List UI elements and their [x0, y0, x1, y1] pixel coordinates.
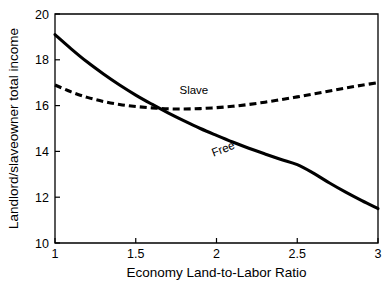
y-tick-label: 10	[35, 237, 49, 251]
x-tick-label: 2.5	[289, 247, 306, 261]
series-label-slave: Slave	[179, 84, 208, 96]
x-tick-label: 2	[213, 247, 220, 261]
x-tick-label: 1	[52, 247, 59, 261]
y-tick-label: 14	[35, 145, 49, 159]
x-axis-title: Economy Land-to-Labor Ratio	[126, 265, 306, 280]
y-tick-label: 12	[35, 191, 49, 205]
chart-figure: 11.522.53 101214161820 FreeSlave Economy…	[0, 0, 390, 290]
x-tick-label: 1.5	[127, 247, 144, 261]
y-tick-label: 18	[35, 53, 49, 67]
y-tick-label: 20	[35, 8, 49, 22]
y-axis-title: Landlord/slaveowner total income	[6, 28, 21, 229]
line-chart-canvas: 11.522.53 101214161820 FreeSlave Economy…	[0, 0, 390, 290]
x-tick-label: 3	[375, 247, 382, 261]
chart-background	[0, 0, 390, 290]
y-tick-label: 16	[35, 99, 49, 113]
